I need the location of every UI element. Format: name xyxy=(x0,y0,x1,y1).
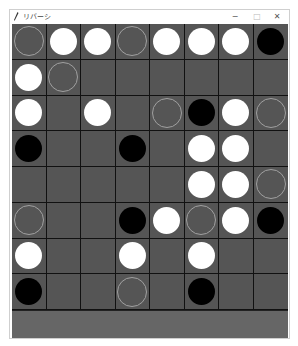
board-cell-r2-c3[interactable] xyxy=(116,96,151,132)
board-cell-r5-c1[interactable] xyxy=(47,203,82,239)
board-cell-r4-c7[interactable] xyxy=(254,167,289,203)
white-stone xyxy=(188,171,215,198)
board-grid[interactable] xyxy=(12,24,288,310)
board-cell-r4-c3[interactable] xyxy=(116,167,151,203)
board-cell-r6-c1[interactable] xyxy=(47,239,82,275)
board-cell-r5-c2[interactable] xyxy=(81,203,116,239)
board-cell-r7-c1[interactable] xyxy=(47,274,82,310)
move-hint-ring-icon[interactable] xyxy=(14,205,44,235)
board-cell-r5-c7[interactable] xyxy=(254,203,289,239)
board-cell-r2-c6[interactable] xyxy=(219,96,254,132)
board-cell-r3-c2[interactable] xyxy=(81,131,116,167)
move-hint-ring-icon[interactable] xyxy=(256,169,286,199)
board-cell-r7-c6[interactable] xyxy=(219,274,254,310)
board-cell-r3-c6[interactable] xyxy=(219,131,254,167)
board-cell-r3-c3[interactable] xyxy=(116,131,151,167)
board-cell-r1-c1[interactable] xyxy=(47,60,82,96)
board-cell-r6-c2[interactable] xyxy=(81,239,116,275)
board-cell-r0-c1[interactable] xyxy=(47,24,82,60)
board-cell-r3-c5[interactable] xyxy=(185,131,220,167)
white-stone xyxy=(84,99,111,126)
title-bar[interactable]: リバーシ − □ ✕ xyxy=(10,10,289,24)
board-cell-r1-c5[interactable] xyxy=(185,60,220,96)
move-hint-ring-icon[interactable] xyxy=(14,26,44,56)
board-cell-r7-c5[interactable] xyxy=(185,274,220,310)
white-stone xyxy=(222,135,249,162)
status-text xyxy=(12,311,288,327)
black-stone xyxy=(188,278,215,305)
board-cell-r0-c0[interactable] xyxy=(12,24,47,60)
maximize-button[interactable]: □ xyxy=(246,10,268,24)
board-cell-r5-c6[interactable] xyxy=(219,203,254,239)
board-cell-r3-c4[interactable] xyxy=(150,131,185,167)
board-cell-r3-c7[interactable] xyxy=(254,131,289,167)
board-cell-r1-c0[interactable] xyxy=(12,60,47,96)
board-cell-r6-c5[interactable] xyxy=(185,239,220,275)
white-stone xyxy=(15,242,42,269)
white-stone xyxy=(15,64,42,91)
board-cell-r6-c3[interactable] xyxy=(116,239,151,275)
board-cell-r7-c2[interactable] xyxy=(81,274,116,310)
white-stone xyxy=(84,28,111,55)
board-cell-r4-c4[interactable] xyxy=(150,167,185,203)
board-cell-r2-c5[interactable] xyxy=(185,96,220,132)
board-cell-r4-c1[interactable] xyxy=(47,167,82,203)
board-cell-r5-c5[interactable] xyxy=(185,203,220,239)
board-cell-r0-c2[interactable] xyxy=(81,24,116,60)
black-stone xyxy=(257,28,284,55)
board-cell-r1-c3[interactable] xyxy=(116,60,151,96)
black-stone xyxy=(15,135,42,162)
move-hint-ring-icon[interactable] xyxy=(256,98,286,128)
board-cell-r4-c6[interactable] xyxy=(219,167,254,203)
board-cell-r6-c6[interactable] xyxy=(219,239,254,275)
board-cell-r1-c7[interactable] xyxy=(254,60,289,96)
move-hint-ring-icon[interactable] xyxy=(117,26,147,56)
move-hint-ring-icon[interactable] xyxy=(152,98,182,128)
minimize-button[interactable]: − xyxy=(224,10,246,24)
board-cell-r0-c4[interactable] xyxy=(150,24,185,60)
move-hint-ring-icon[interactable] xyxy=(186,205,216,235)
game-board[interactable] xyxy=(12,24,288,310)
board-cell-r5-c4[interactable] xyxy=(150,203,185,239)
board-cell-r0-c3[interactable] xyxy=(116,24,151,60)
board-cell-r5-c3[interactable] xyxy=(116,203,151,239)
board-cell-r1-c4[interactable] xyxy=(150,60,185,96)
board-cell-r3-c0[interactable] xyxy=(12,131,47,167)
status-panel xyxy=(12,310,288,338)
board-cell-r0-c6[interactable] xyxy=(219,24,254,60)
white-stone xyxy=(188,135,215,162)
board-cell-r2-c1[interactable] xyxy=(47,96,82,132)
reversi-window: リバーシ − □ ✕ xyxy=(9,9,290,339)
black-stone xyxy=(15,278,42,305)
board-cell-r2-c4[interactable] xyxy=(150,96,185,132)
board-cell-r6-c7[interactable] xyxy=(254,239,289,275)
black-stone xyxy=(119,135,146,162)
board-cell-r5-c0[interactable] xyxy=(12,203,47,239)
white-stone xyxy=(188,28,215,55)
board-cell-r4-c0[interactable] xyxy=(12,167,47,203)
board-cell-r0-c7[interactable] xyxy=(254,24,289,60)
black-stone xyxy=(257,207,284,234)
close-button[interactable]: ✕ xyxy=(266,10,288,24)
board-cell-r4-c2[interactable] xyxy=(81,167,116,203)
board-cell-r7-c4[interactable] xyxy=(150,274,185,310)
board-cell-r6-c4[interactable] xyxy=(150,239,185,275)
board-cell-r0-c5[interactable] xyxy=(185,24,220,60)
board-cell-r2-c2[interactable] xyxy=(81,96,116,132)
board-cell-r7-c3[interactable] xyxy=(116,274,151,310)
black-stone xyxy=(188,99,215,126)
white-stone xyxy=(50,28,77,55)
move-hint-ring-icon[interactable] xyxy=(48,62,78,92)
white-stone xyxy=(153,28,180,55)
board-cell-r6-c0[interactable] xyxy=(12,239,47,275)
board-cell-r1-c2[interactable] xyxy=(81,60,116,96)
board-cell-r7-c0[interactable] xyxy=(12,274,47,310)
board-cell-r2-c0[interactable] xyxy=(12,96,47,132)
board-cell-r4-c5[interactable] xyxy=(185,167,220,203)
board-cell-r7-c7[interactable] xyxy=(254,274,289,310)
board-cell-r3-c1[interactable] xyxy=(47,131,82,167)
feather-app-icon xyxy=(13,12,19,21)
board-cell-r1-c6[interactable] xyxy=(219,60,254,96)
move-hint-ring-icon[interactable] xyxy=(117,277,147,307)
board-cell-r2-c7[interactable] xyxy=(254,96,289,132)
